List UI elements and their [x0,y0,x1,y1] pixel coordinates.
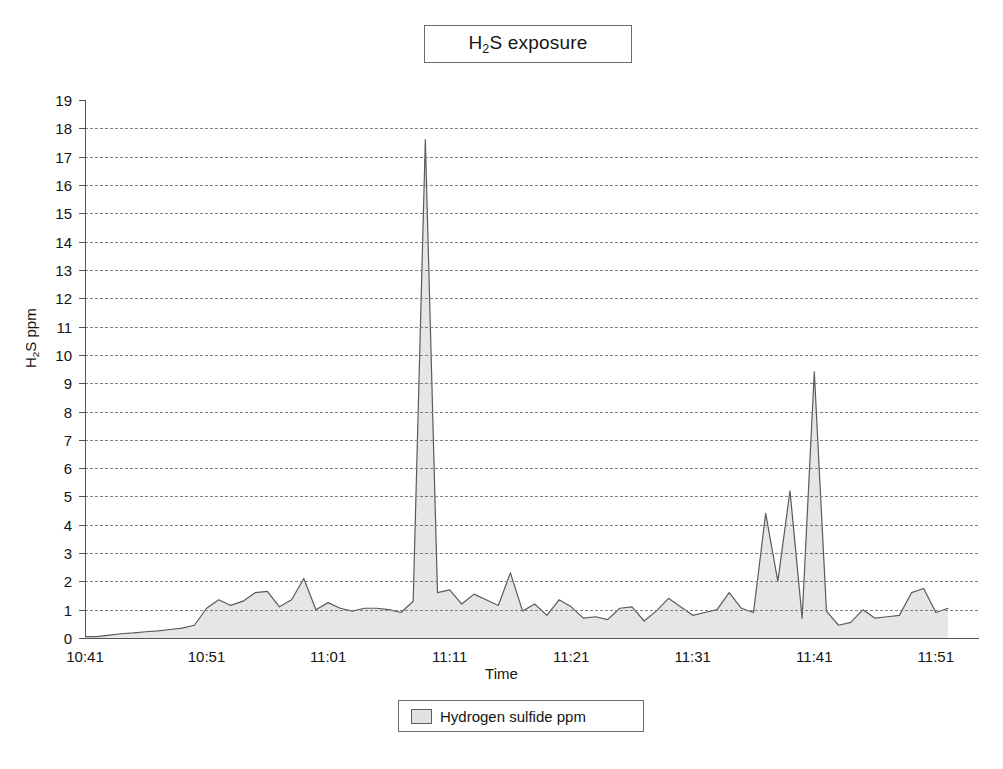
y-tick-5 [79,496,86,497]
y-tick-10 [79,355,86,356]
x-tick-label-11-41: 11:41 [779,648,849,665]
x-tick-label-11-01: 11:01 [293,648,363,665]
series-hydrogen-sulfide [85,100,978,638]
y-tick-label-5: 5 [32,488,72,505]
gridline-8 [85,412,978,413]
y-tick-label-1: 1 [32,601,72,618]
gridline-9 [85,383,978,384]
y-tick-label-6: 6 [32,460,72,477]
y-tick-18 [79,128,86,129]
gridline-10 [85,355,978,356]
y-tick-label-13: 13 [32,261,72,278]
y-tick-label-7: 7 [32,431,72,448]
ylabel-prefix: H [22,357,39,368]
title-prefix: H [468,32,482,53]
y-tick-0 [79,638,86,639]
y-tick-8 [79,412,86,413]
y-tick-15 [79,213,86,214]
x-tick-label-11-21: 11:21 [536,648,606,665]
gridline-4 [85,525,978,526]
y-tick-label-17: 17 [32,148,72,165]
y-tick-label-12: 12 [32,290,72,307]
y-tick-1 [79,610,86,611]
y-tick-6 [79,468,86,469]
x-tick-label-10-51: 10:51 [172,648,242,665]
y-tick-14 [79,242,86,243]
x-axis-line [85,638,979,639]
gridline-13 [85,270,978,271]
y-tick-9 [79,383,86,384]
x-tick-label-10-41: 10:41 [50,648,120,665]
y-tick-label-19: 19 [32,92,72,109]
gridline-15 [85,213,978,214]
ylabel-subscript: 2 [30,352,41,358]
y-tick-13 [79,270,86,271]
gridline-7 [85,440,978,441]
y-tick-4 [79,525,86,526]
legend-item-label: Hydrogen sulfide ppm [440,708,586,725]
gridline-18 [85,128,978,129]
gridline-3 [85,553,978,554]
y-tick-7 [79,440,86,441]
title-suffix: S exposure [489,32,587,53]
y-tick-label-8: 8 [32,403,72,420]
y-tick-label-15: 15 [32,205,72,222]
y-tick-label-18: 18 [32,120,72,137]
y-tick-label-4: 4 [32,516,72,533]
legend-swatch-icon [411,709,432,724]
y-tick-12 [79,298,86,299]
x-tick-label-11-31: 11:31 [658,648,728,665]
area-fill [85,140,948,638]
page-title: H2S exposure [468,32,587,56]
gridline-1 [85,610,978,611]
gridline-11 [85,327,978,328]
y-tick-19 [79,100,86,101]
gridline-12 [85,298,978,299]
y-tick-17 [79,157,86,158]
gridline-6 [85,468,978,469]
y-tick-2 [79,581,86,582]
gridline-5 [85,496,978,497]
gridline-14 [85,242,978,243]
gridline-2 [85,581,978,582]
plot-area [85,100,978,638]
chart-figure: H2S exposure 012345678910111213141516171… [0,0,1003,769]
ylabel-suffix: S ppm [22,308,39,351]
y-tick-16 [79,185,86,186]
gridline-17 [85,157,978,158]
chart-title-box: H2S exposure [424,25,632,63]
legend: Hydrogen sulfide ppm [398,700,644,732]
y-tick-label-0: 0 [32,630,72,647]
y-axis-label: H2S ppm [22,308,41,368]
y-tick-label-3: 3 [32,545,72,562]
y-tick-3 [79,553,86,554]
y-tick-11 [79,327,86,328]
y-tick-label-16: 16 [32,176,72,193]
x-tick-label-11-51: 11:51 [901,648,971,665]
gridline-16 [85,185,978,186]
y-tick-label-9: 9 [32,375,72,392]
x-tick-label-11-11: 11:11 [415,648,485,665]
x-axis-label: Time [0,665,1003,682]
y-tick-label-14: 14 [32,233,72,250]
y-tick-label-2: 2 [32,573,72,590]
